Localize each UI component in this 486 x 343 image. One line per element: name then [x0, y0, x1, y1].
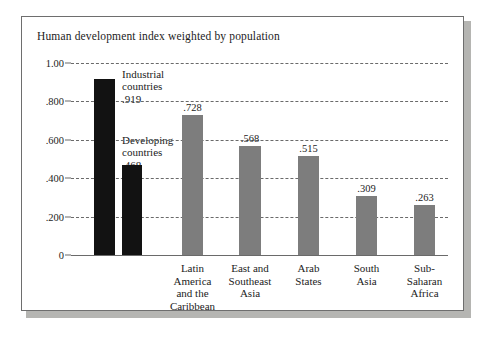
y-tick-mark — [65, 216, 71, 217]
bar-value-sub-saharan-africa: .263 — [415, 192, 433, 203]
category-label-line: Caribbean — [155, 300, 231, 313]
category-label-line: Asia — [212, 287, 288, 300]
axis-baseline — [71, 255, 448, 256]
gridline-.800 — [71, 101, 448, 102]
y-tick-mark — [65, 101, 71, 102]
category-label-sub-saharan-africa: Sub-SaharanAfrica — [387, 262, 463, 300]
bar-value-latin-america-and-the-caribbean: .728 — [183, 102, 201, 113]
callout-industrial-line2: countries — [122, 80, 164, 92]
bar-developing-countries[interactable] — [122, 165, 142, 255]
y-tick-label-.600: .600 — [46, 134, 64, 145]
y-tick-mark — [65, 178, 71, 179]
y-tick-label-.200: .200 — [46, 211, 64, 222]
bar-east-and-southeast-asia[interactable]: .568East andSoutheastAsia — [239, 146, 261, 255]
category-label-line: Saharan — [387, 275, 463, 288]
y-tick-mark — [65, 63, 71, 64]
chart-figure: Human development index weighted by popu… — [0, 0, 486, 343]
bar-value-arab-states: .515 — [299, 143, 317, 154]
y-tick-mark — [65, 139, 71, 140]
gridline-1.00 — [71, 63, 448, 64]
bar-value-east-and-southeast-asia: .568 — [241, 133, 259, 144]
category-label-line: Sub- — [387, 262, 463, 275]
y-tick-label-.400: .400 — [46, 173, 64, 184]
chart-panel: Human development index weighted by popu… — [21, 16, 464, 311]
bar-sub-saharan-africa[interactable]: .263Sub-SaharanAfrica — [414, 205, 435, 255]
y-tick-label-.800: .800 — [46, 96, 64, 107]
y-tick-label-0: 0 — [59, 250, 64, 261]
bar-south-asia[interactable]: .309SouthAsia — [356, 196, 377, 255]
plot-area: Industrial countries .919 Developing cou… — [71, 63, 448, 255]
bar-arab-states[interactable]: .515ArabStates — [298, 156, 319, 255]
bar-industrial-countries[interactable] — [94, 79, 115, 255]
callout-developing-line2: countries — [122, 146, 173, 158]
gridline-.600 — [71, 140, 448, 141]
bar-value-south-asia: .309 — [357, 183, 375, 194]
bar-latin-america-and-the-caribbean[interactable]: .728LatinAmericaand theCaribbean — [182, 115, 203, 255]
y-tick-label-1.00: 1.00 — [46, 58, 64, 69]
y-tick-mark — [65, 255, 71, 256]
callout-industrial-value: .919 — [122, 93, 164, 105]
category-label-line: Africa — [387, 287, 463, 300]
chart-title: Human development index weighted by popu… — [37, 30, 280, 42]
callout-industrial-line1: Industrial — [122, 68, 164, 80]
callout-industrial-countries: Industrial countries .919 — [122, 68, 164, 105]
